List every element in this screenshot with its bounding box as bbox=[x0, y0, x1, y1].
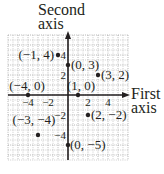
point-label: (0, 3) bbox=[71, 57, 99, 72]
point-marker bbox=[26, 93, 30, 97]
x-tick-label: −2 bbox=[42, 96, 54, 108]
point-label: (3, 2) bbox=[101, 67, 129, 82]
point-label: (1, 0) bbox=[67, 78, 95, 93]
y-tick-label: 4 bbox=[61, 49, 67, 61]
point-marker bbox=[56, 53, 60, 57]
data-point: (3, 2) bbox=[96, 67, 129, 82]
x-tick-label: −4 bbox=[22, 96, 34, 108]
point-marker bbox=[36, 133, 40, 137]
point-label: (−1, 4) bbox=[19, 47, 55, 62]
point-label: (2, −2) bbox=[91, 107, 127, 122]
data-point: (0, −5) bbox=[66, 137, 106, 152]
point-marker bbox=[66, 63, 70, 67]
point-label: (−3, −4) bbox=[13, 112, 56, 127]
y-tick-label: −4 bbox=[54, 129, 66, 141]
point-marker bbox=[86, 113, 90, 117]
point-label: (0, −5) bbox=[70, 137, 106, 152]
y-tick-label: 2 bbox=[61, 69, 67, 81]
x-axis-arrow-icon bbox=[122, 92, 130, 98]
point-marker bbox=[96, 73, 100, 77]
y-tick-label: −2 bbox=[54, 109, 66, 121]
point-marker bbox=[76, 93, 80, 97]
data-point: (2, −2) bbox=[86, 107, 127, 122]
point-label: (−4, 0) bbox=[9, 78, 45, 93]
data-point: (−3, −4) bbox=[13, 112, 56, 137]
data-point: (−1, 4) bbox=[19, 47, 61, 62]
coordinate-plane: −4−22442−2−4 (−1, 4)(0, 3)(3, 2)(−4, 0)(… bbox=[0, 0, 164, 174]
x-tick-label: 2 bbox=[85, 96, 91, 108]
data-point: (0, 3) bbox=[66, 57, 99, 72]
